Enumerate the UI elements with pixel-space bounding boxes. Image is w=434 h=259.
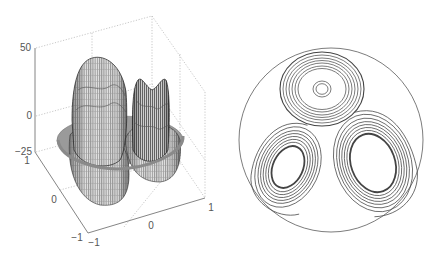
contour-cluster-lower-left (238, 111, 336, 222)
z-tick-50: 50 (20, 42, 32, 53)
z-tick-0: 0 (26, 110, 32, 121)
x-tick-neg1: −1 (88, 237, 100, 248)
surface-plot: 50 0 −25 1 0 −1 −1 0 1 (0, 0, 225, 259)
surface-plot-panel: 50 0 −25 1 0 −1 −1 0 1 (0, 0, 225, 259)
z-axis-ticks: 50 0 −25 (15, 42, 32, 157)
surface-mesh (57, 57, 183, 205)
y-tick-neg1: −1 (71, 232, 83, 243)
x-axis-ticks: −1 0 1 (88, 202, 214, 248)
x-tick-1: 1 (208, 202, 214, 213)
contour-plot (225, 0, 434, 259)
contour-plot-panel (225, 0, 434, 259)
contour-cluster-top (280, 52, 364, 126)
y-tick-0: 0 (51, 194, 57, 205)
y-tick-1: 1 (24, 155, 30, 166)
disk-boundary (239, 48, 423, 232)
x-tick-0: 0 (148, 220, 154, 231)
